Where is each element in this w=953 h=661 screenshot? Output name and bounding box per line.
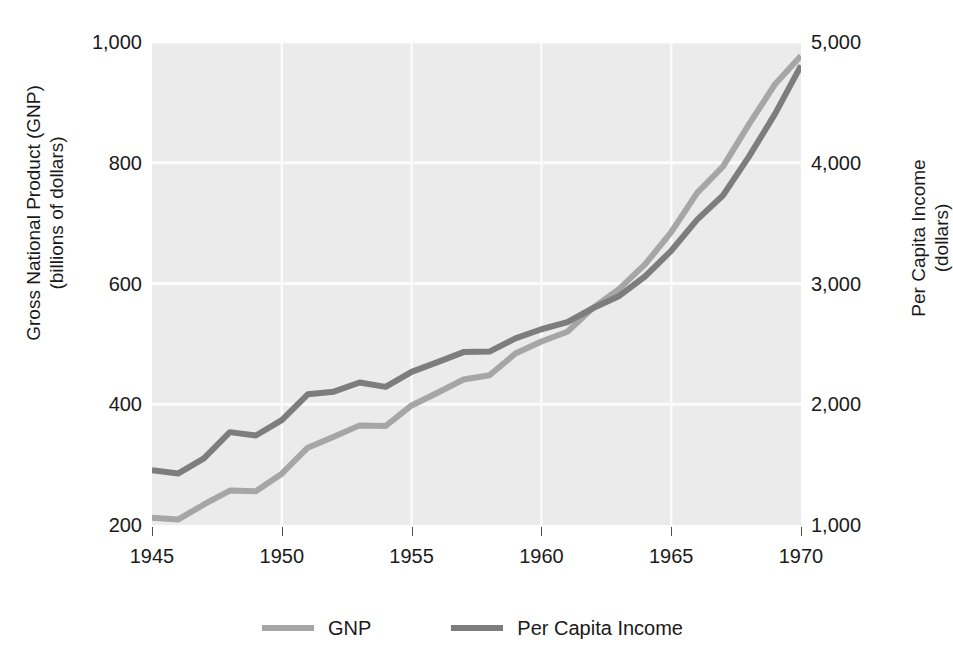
legend-swatch-gnp <box>262 625 314 631</box>
legend-swatch-per-capita-income <box>451 625 503 631</box>
x-axis-tick-mark <box>801 527 802 536</box>
y-axis-right-title-line2: (dollars) <box>930 103 953 373</box>
y-axis-right-title: Per Capita Income (dollars) <box>907 103 953 373</box>
x-axis-tick-label: 1955 <box>372 546 452 566</box>
y-axis-left-title-line2: (billions of dollars) <box>45 63 68 363</box>
y-axis-left-title-line1: Gross National Product (GNP) <box>22 63 45 363</box>
x-axis-tick-mark <box>152 527 153 536</box>
x-axis-tick-label: 1950 <box>242 546 322 566</box>
x-axis-tick-label: 1945 <box>112 546 192 566</box>
x-axis-tick-mark <box>541 527 542 536</box>
legend-label-gnp: GNP <box>328 618 371 638</box>
x-axis-tick-mark <box>412 527 413 536</box>
chart-legend: GNP Per Capita Income <box>0 608 945 648</box>
legend-item-gnp: GNP <box>262 618 371 638</box>
x-axis-tick-label: 1970 <box>761 546 841 566</box>
legend-item-per-capita-income: Per Capita Income <box>451 618 683 638</box>
y-axis-left-title: Gross National Product (GNP) (billions o… <box>22 63 68 363</box>
x-axis-tick-mark <box>671 527 672 536</box>
x-axis-tick-label: 1965 <box>631 546 711 566</box>
legend-label-per-capita-income: Per Capita Income <box>517 618 683 638</box>
x-axis-tick-mark <box>282 527 283 536</box>
x-axis-tick-label: 1960 <box>501 546 581 566</box>
y-axis-right-title-line1: Per Capita Income <box>907 103 930 373</box>
